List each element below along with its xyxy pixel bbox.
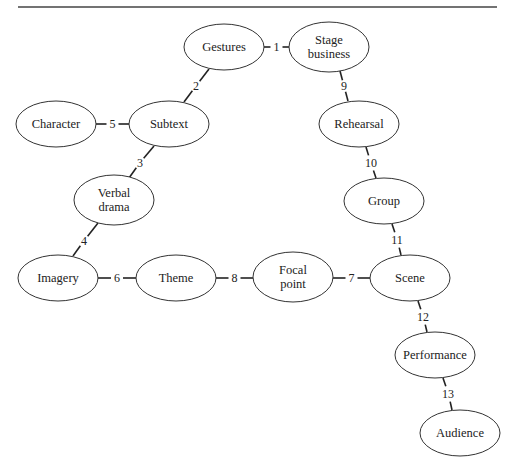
edge-number-label: 13 (442, 387, 454, 401)
node-label: business (308, 47, 351, 61)
node-subtext: Subtext (129, 101, 209, 147)
edge-gestures-to-subtext: 2 (184, 69, 209, 102)
node-group: Group (344, 178, 424, 224)
edge-number-label: 11 (391, 233, 403, 247)
node-label: Subtext (150, 117, 189, 131)
edge-scene-to-performance: 12 (417, 301, 429, 332)
edge-number-label: 5 (110, 117, 116, 131)
connector-line (418, 301, 421, 309)
connector-line (144, 146, 154, 158)
connector-line (200, 69, 209, 81)
node-theme: Theme (136, 255, 216, 301)
edge-subtext-to-verbal-drama: 3 (129, 146, 154, 178)
node-gestures: Gestures (184, 24, 264, 70)
edge-group-to-scene: 11 (391, 224, 403, 255)
edge-verbal-drama-to-imagery: 4 (73, 223, 98, 256)
edge-rehearsal-to-group: 10 (365, 147, 377, 178)
node-verbal-drama: Verbaldrama (74, 175, 154, 225)
node-label: Rehearsal (334, 117, 384, 131)
connector-line (399, 248, 401, 255)
edge-stage-business-to-rehearsal: 9 (340, 71, 348, 101)
node-imagery: Imagery (18, 255, 98, 301)
edge-number-label: 6 (114, 271, 120, 285)
edge-imagery-to-theme: 6 (98, 271, 136, 285)
node-label: drama (98, 200, 130, 214)
node-label: Gestures (202, 40, 246, 54)
node-label: Character (32, 117, 81, 131)
node-rehearsal: Rehearsal (319, 101, 399, 147)
connector-line (346, 92, 348, 101)
connector-line (373, 171, 376, 178)
edge-gestures-to-stage-business: 1 (264, 40, 289, 54)
node-label: Performance (403, 348, 467, 362)
edge-number-label: 1 (274, 40, 280, 54)
connector-line (129, 168, 136, 178)
edge-number-label: 9 (341, 79, 347, 93)
node-label: Focal (279, 263, 307, 277)
node-label: Audience (436, 426, 484, 440)
node-label: point (280, 277, 306, 291)
connector-line (425, 325, 427, 332)
node-focal-point: Focalpoint (253, 252, 333, 302)
connector-line (88, 223, 98, 236)
connector-line (184, 91, 192, 102)
edge-theme-to-focal-point: 8 (216, 271, 253, 285)
nodes-layer: GesturesStagebusinessCharacterSubtextReh… (16, 22, 500, 456)
connector-line (450, 402, 452, 410)
edge-character-to-subtext: 5 (96, 117, 129, 131)
node-label: Verbal (98, 186, 131, 200)
connector-line (443, 378, 446, 386)
edge-focal-point-to-scene: 7 (333, 271, 370, 285)
edge-number-label: 10 (365, 156, 377, 170)
connector-line (73, 246, 80, 256)
node-performance: Performance (395, 332, 475, 378)
connector-line (392, 224, 395, 232)
edge-number-label: 3 (137, 156, 143, 170)
edge-number-label: 2 (193, 79, 199, 93)
node-character: Character (16, 101, 96, 147)
node-label: Theme (159, 271, 194, 285)
concept-map-diagram: 12345678910111213 GesturesStagebusinessC… (0, 0, 514, 472)
node-stage-business: Stagebusiness (289, 22, 369, 72)
node-audience: Audience (420, 410, 500, 456)
node-label: Stage (315, 33, 343, 47)
edge-performance-to-audience: 13 (442, 378, 454, 410)
edge-number-label: 7 (349, 271, 355, 285)
node-label: Group (368, 194, 400, 208)
edge-number-label: 4 (81, 234, 87, 248)
node-scene: Scene (370, 255, 450, 301)
node-label: Scene (395, 271, 425, 285)
edge-number-label: 8 (232, 271, 238, 285)
node-label: Imagery (37, 271, 79, 285)
edge-number-label: 12 (417, 310, 429, 324)
connector-line (366, 147, 369, 155)
